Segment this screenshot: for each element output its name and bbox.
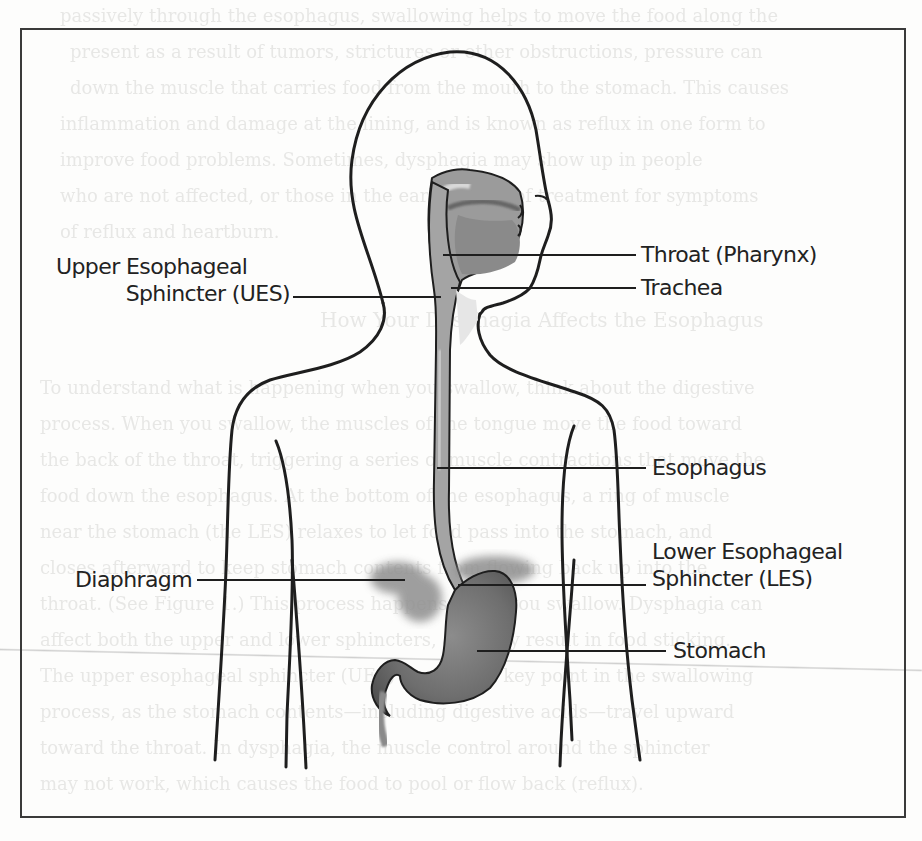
ues-label-line2: Sphincter (UES) <box>40 280 290 307</box>
les-label-line1: Lower Esophageal <box>652 538 843 565</box>
label-diaphragm: Diaphragm <box>40 566 192 593</box>
head-outline <box>215 52 640 760</box>
label-throat: Throat (Pharynx) <box>641 241 817 268</box>
les-label-line2: Sphincter (LES) <box>652 565 843 592</box>
label-stomach: Stomach <box>673 637 766 664</box>
label-trachea: Trachea <box>641 274 723 301</box>
stomach-shape <box>372 571 517 746</box>
label-esophagus: Esophagus <box>652 454 766 481</box>
label-lower-esophageal-sphincter: Lower Esophageal Sphincter (LES) <box>652 538 843 592</box>
ues-label-line1: Upper Esophageal <box>40 253 290 280</box>
anatomy-illustration <box>0 0 922 841</box>
label-upper-esophageal-sphincter: Upper Esophageal Sphincter (UES) <box>40 253 290 307</box>
